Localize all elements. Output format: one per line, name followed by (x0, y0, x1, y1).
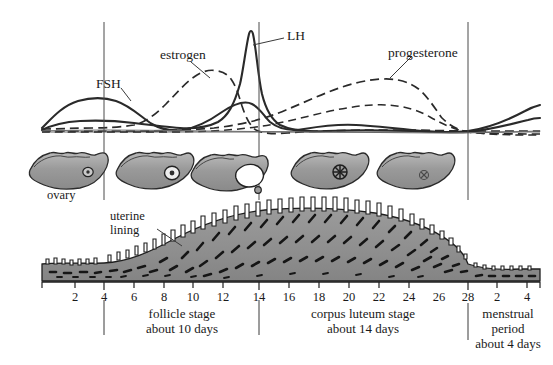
label-fsh: FSH (96, 76, 121, 91)
time-axis (42, 282, 540, 290)
tick-label-28: 28 (462, 290, 475, 304)
ovary-stage-1 (29, 152, 108, 189)
ovary-stage-2 (116, 152, 194, 188)
tick-label-16: 16 (283, 290, 296, 304)
axis-ticks (42, 282, 540, 290)
tick-label-14: 14 (253, 290, 266, 304)
degenerating-corpus-luteum (420, 171, 429, 180)
tick-label-26: 26 (433, 290, 446, 304)
stage-menstrual-line1: menstrual (482, 307, 533, 322)
label-uterine-lining-line1: uterine (110, 209, 145, 223)
tick-label-22: 22 (373, 290, 386, 304)
tick-label-8: 8 (161, 290, 167, 304)
leader-lh (253, 38, 284, 45)
stage-follicle-line1: follicle stage (149, 307, 216, 322)
ovary-row (29, 152, 455, 193)
ruptured-follicle (236, 164, 264, 187)
tick-label-20: 20 (343, 290, 356, 304)
ovary-stage-3 (191, 154, 268, 193)
tick-label-2: 2 (72, 290, 78, 304)
stage-corpus-luteum-line1: corpus luteum stage (311, 307, 415, 322)
label-uterine-lining-line2: lining (110, 223, 139, 237)
tick-label-next-4: 4 (524, 290, 530, 304)
stage-menstrual-line3: about 4 days (475, 337, 541, 352)
stage-follicle-line2: about 10 days (146, 322, 218, 337)
tick-label-18: 18 (313, 290, 326, 304)
label-lh: LH (287, 28, 305, 43)
corpus-luteum (333, 165, 347, 179)
tick-label-4: 4 (101, 290, 107, 304)
tick-label-6: 6 (131, 290, 137, 304)
label-progesterone: progesterone (388, 45, 458, 60)
label-estrogen: estrogen (160, 47, 206, 62)
ovary-stage-5 (377, 152, 455, 188)
diagram-canvas (0, 0, 553, 365)
tick-label-24: 24 (403, 290, 416, 304)
menstrual-cycle-diagram: FSH estrogen LH progesterone ovary uteri… (0, 0, 553, 365)
ovary-stage-4 (291, 152, 369, 188)
stage-menstrual-line2: period (491, 322, 524, 337)
tick-label-next-2: 2 (494, 290, 500, 304)
label-ovary: ovary (47, 188, 75, 202)
tick-label-12: 12 (217, 290, 230, 304)
stage-corpus-luteum-line2: about 14 days (327, 322, 399, 337)
leader-fsh (121, 88, 131, 101)
tick-label-10: 10 (187, 290, 200, 304)
released-ovum (255, 187, 262, 194)
